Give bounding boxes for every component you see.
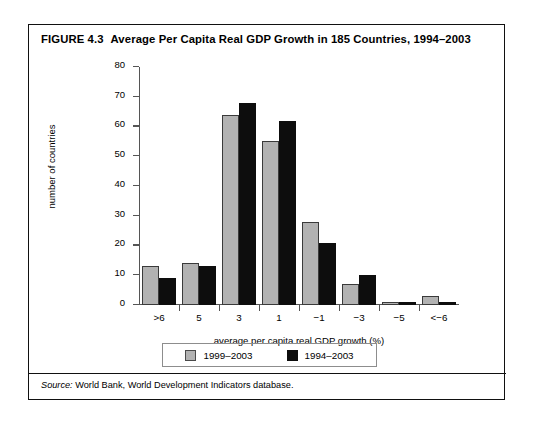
bar-1999-2003-−1 xyxy=(302,222,319,305)
source-text: World Bank, World Development Indicators… xyxy=(73,380,294,390)
bar-group: >6 xyxy=(142,67,176,305)
y-tick-label-4: 40 xyxy=(114,178,125,189)
y-tick-label-5: 50 xyxy=(114,148,125,159)
figure-title-text: Average Per Capita Real GDP Growth in 18… xyxy=(111,33,471,45)
y-tick-label-1: 10 xyxy=(114,267,125,278)
figure-panel: FIGURE 4.3Average Per Capita Real GDP Gr… xyxy=(28,24,505,400)
x-tick-label-7: <−6 xyxy=(409,312,469,323)
bar-1999-2003-<−6 xyxy=(422,296,439,305)
bar-1999-2003->6 xyxy=(142,266,159,305)
figure-title: FIGURE 4.3Average Per Capita Real GDP Gr… xyxy=(41,33,494,45)
bar-group: <−6 xyxy=(422,67,456,305)
bar-1999-2003-−3 xyxy=(342,284,359,305)
bar-1994-2003->6 xyxy=(159,278,176,305)
chart-area: number of countries 01020304050607080 >6… xyxy=(29,53,506,343)
plot-region: 01020304050607080 >6531−1−3−5<−6 xyxy=(139,67,459,305)
y-tick-label-0: 0 xyxy=(120,297,125,308)
bar-1999-2003-1 xyxy=(262,141,279,305)
chart-legend: 1999–20031994–2003 xyxy=(162,343,377,367)
bar-group: −3 xyxy=(342,67,376,305)
legend-label-1: 1994–2003 xyxy=(305,350,354,361)
bar-1999-2003-3 xyxy=(222,115,239,305)
bar-group: 1 xyxy=(262,67,296,305)
bar-series-group: >6531−1−3−5<−6 xyxy=(139,67,459,305)
bar-group: −1 xyxy=(302,67,336,305)
y-tick-label-6: 60 xyxy=(114,118,125,129)
x-tick-6 xyxy=(379,305,380,311)
x-tick-2 xyxy=(219,305,220,311)
figure-number: FIGURE 4.3 xyxy=(41,33,104,45)
source-divider xyxy=(29,373,506,374)
y-axis-label: number of countries xyxy=(46,87,57,247)
y-tick-label-3: 30 xyxy=(114,208,125,219)
legend-item-0: 1999–2003 xyxy=(185,350,252,361)
bar-1994-2003-1 xyxy=(279,121,296,305)
bar-1994-2003-−1 xyxy=(319,243,336,305)
bar-1994-2003-3 xyxy=(239,103,256,305)
bar-1994-2003-5 xyxy=(199,266,216,305)
bar-1999-2003-5 xyxy=(182,263,199,305)
bar-1994-2003-−3 xyxy=(359,275,376,305)
x-tick-7 xyxy=(419,305,420,311)
source-prefix: Source: xyxy=(41,380,73,390)
legend-swatch-1 xyxy=(287,350,298,361)
bar-group: −5 xyxy=(382,67,416,305)
bar-1999-2003-−5 xyxy=(382,302,399,305)
legend-label-0: 1999–2003 xyxy=(203,350,252,361)
y-tick-label-2: 20 xyxy=(114,237,125,248)
x-tick-5 xyxy=(339,305,340,311)
bar-group: 3 xyxy=(222,67,256,305)
source-note: Source: World Bank, World Development In… xyxy=(41,380,293,390)
y-tick-label-7: 70 xyxy=(114,89,125,100)
x-tick-4 xyxy=(299,305,300,311)
bar-1994-2003-−5 xyxy=(399,302,416,305)
x-tick-1 xyxy=(179,305,180,311)
bar-1994-2003-<−6 xyxy=(439,302,456,305)
legend-swatch-0 xyxy=(185,350,196,361)
bar-group: 5 xyxy=(182,67,216,305)
x-tick-3 xyxy=(259,305,260,311)
y-tick-label-8: 80 xyxy=(114,59,125,70)
legend-item-1: 1994–2003 xyxy=(287,350,354,361)
